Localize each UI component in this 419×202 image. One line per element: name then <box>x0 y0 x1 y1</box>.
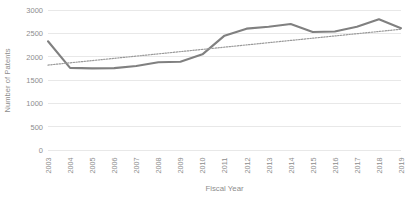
y-axis-title-label: Number of Patents <box>3 48 12 112</box>
x-axis-tick-label-text: 2015 <box>308 158 317 174</box>
x-axis-tick-label: 2009 <box>175 152 185 182</box>
y-axis-tick-label: 1500 <box>26 76 43 85</box>
x-axis-tick-label: 2003 <box>43 152 53 182</box>
x-axis-tick-label: 2016 <box>330 152 340 182</box>
series-layer <box>48 19 401 68</box>
y-axis-tick-label: 2500 <box>26 29 43 38</box>
plot-canvas <box>48 10 401 150</box>
y-axis-tick-label: 500 <box>30 122 43 131</box>
x-axis-tick-label-text: 2017 <box>352 158 361 174</box>
x-axis-title: Fiscal Year <box>48 184 401 193</box>
x-axis-tick-label: 2007 <box>131 152 141 182</box>
x-axis-tick-label-text: 2005 <box>88 158 97 174</box>
x-axis-tick-label: 2011 <box>220 152 230 182</box>
x-axis-tick-label: 2010 <box>197 152 207 182</box>
x-axis-tick-label-text: 2012 <box>242 158 251 174</box>
x-axis-tick-label: 2012 <box>242 152 252 182</box>
gridlines <box>48 10 401 150</box>
x-axis-tick-labels: 2003200420052006200720082009201020112012… <box>48 152 401 184</box>
x-axis-tick-label-text: 2004 <box>66 158 75 174</box>
x-axis-tick-label-text: 2010 <box>198 158 207 174</box>
x-axis-tick-label-text: 2006 <box>110 158 119 174</box>
x-axis-tick-label: 2015 <box>308 152 318 182</box>
x-axis-tick-label: 2017 <box>352 152 362 182</box>
x-axis-tick-label-text: 2011 <box>220 158 229 173</box>
y-axis-tick-labels: 050010001500200025003000 <box>14 0 46 160</box>
x-axis-tick-label-text: 2013 <box>264 158 273 174</box>
x-axis-tick-label-text: 2007 <box>132 158 141 174</box>
x-axis-tick-label-text: 2003 <box>44 158 53 174</box>
y-axis-tick-label: 1000 <box>26 99 43 108</box>
x-axis-tick-label-text: 2019 <box>397 158 406 174</box>
x-axis-tick-label-text: 2018 <box>374 158 383 174</box>
x-axis-tick-label: 2014 <box>286 152 296 182</box>
x-axis-tick-label: 2018 <box>374 152 384 182</box>
patents-line-chart: Number of Patents 0500100015002000250030… <box>0 0 419 202</box>
data-series-line <box>48 19 401 68</box>
x-axis-tick-label: 2006 <box>109 152 119 182</box>
y-axis-tick-label: 2000 <box>26 52 43 61</box>
x-axis-tick-label-text: 2009 <box>176 158 185 174</box>
y-axis-title: Number of Patents <box>0 0 14 160</box>
x-axis-tick-label: 2004 <box>65 152 75 182</box>
x-axis-tick-label: 2005 <box>87 152 97 182</box>
plot-area <box>48 10 401 150</box>
x-axis-tick-label-text: 2014 <box>286 158 295 174</box>
x-axis-tick-label: 2008 <box>153 152 163 182</box>
y-axis-tick-label: 3000 <box>26 6 43 15</box>
x-axis-tick-label-text: 2016 <box>330 158 339 174</box>
x-axis-tick-label: 2019 <box>396 152 406 182</box>
x-axis-tick-label-text: 2008 <box>154 158 163 174</box>
x-axis-tick-label: 2013 <box>264 152 274 182</box>
